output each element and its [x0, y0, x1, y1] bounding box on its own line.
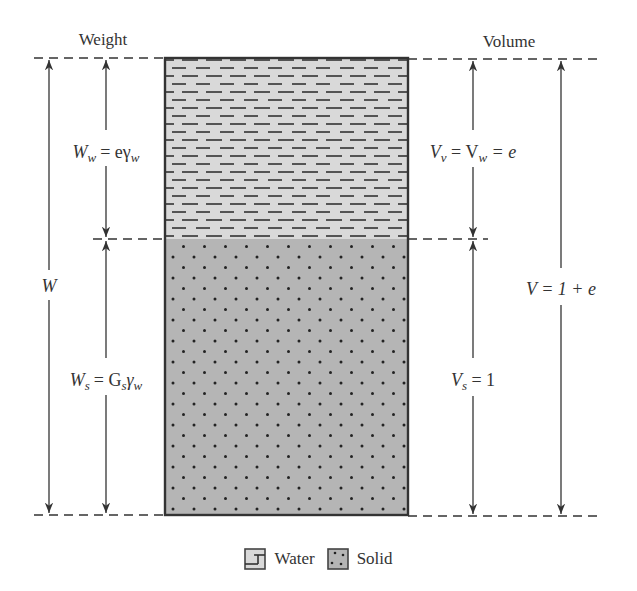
- solid-volume-label: Vs = 1: [451, 370, 495, 393]
- water-swatch-icon: [244, 548, 266, 570]
- legend-label-water: Water: [274, 549, 314, 569]
- legend-item-water: Water: [244, 548, 314, 570]
- legend-item-solid: Solid: [327, 548, 393, 570]
- solid-phase-block: [165, 239, 408, 515]
- legend-label-solid: Solid: [357, 549, 393, 569]
- volume-header: Volume: [483, 32, 536, 51]
- legend: Water Solid: [0, 548, 637, 570]
- water-weight-label: Ww= eγw: [73, 142, 140, 165]
- phase-diagram: Weight Volume W Ww= eγw Ws= Gsγw Vv: [0, 0, 637, 591]
- weight-header: Weight: [79, 30, 128, 49]
- solid-weight-label: Ws= Gsγw: [70, 370, 143, 393]
- total-volume-label: V = 1 + e: [526, 279, 596, 299]
- total-weight-label: W: [42, 276, 59, 296]
- water-phase-block: [165, 58, 408, 239]
- solid-swatch-icon: [327, 548, 349, 570]
- void-volume-label: Vv = Vw = e: [430, 142, 516, 165]
